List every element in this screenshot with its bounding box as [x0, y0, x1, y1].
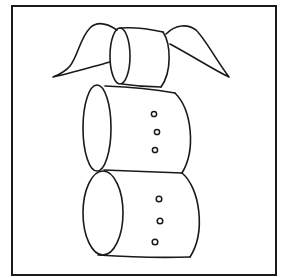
picture-frame — [12, 6, 276, 275]
bottom-front-face — [83, 171, 123, 255]
bottom-bottom-edge — [98, 255, 190, 257]
head-front-face — [110, 28, 130, 84]
middle-back-curve — [175, 93, 190, 173]
middle-button-1 — [151, 111, 156, 116]
middle-button-3 — [152, 147, 157, 152]
bottom-button-1 — [156, 196, 162, 202]
bottom-button-3 — [152, 239, 158, 245]
middle-body-cylinder — [83, 85, 190, 173]
middle-front-face — [83, 85, 111, 171]
middle-button-2 — [154, 129, 159, 134]
head-top-edge — [120, 28, 163, 32]
middle-top-edge — [105, 86, 175, 93]
right-pigtail — [166, 26, 229, 77]
snowman-drawing — [0, 0, 286, 278]
middle-bottom-edge — [104, 170, 182, 173]
bottom-body-cylinder — [83, 171, 199, 257]
bottom-button-2 — [157, 218, 163, 224]
head-cylinder — [53, 24, 229, 87]
left-pigtail — [53, 24, 117, 77]
bottom-back-curve — [182, 173, 199, 257]
head-back-curve — [161, 32, 169, 87]
